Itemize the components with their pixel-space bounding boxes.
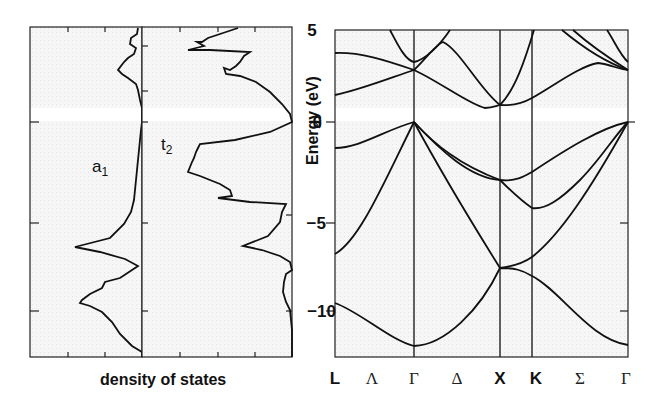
kpoint-K: K	[530, 369, 543, 388]
kpoint-Lambda: Λ	[366, 369, 379, 388]
figure: a1 t2 density of states	[0, 0, 657, 410]
kpoint-Sigma: Σ	[575, 369, 585, 388]
ytick-minus10: −10	[307, 302, 336, 321]
kpoint-L: L	[330, 369, 340, 388]
kpoint-Gamma-end: Γ	[621, 369, 631, 388]
band-structure-panel	[326, 30, 635, 357]
dos-t2-panel	[142, 27, 292, 357]
ytick-minus5: −5	[307, 214, 326, 233]
ytick-5: 5	[307, 21, 316, 40]
energy-ylabel: Energy (eV)	[304, 76, 321, 165]
kpoint-X: X	[494, 369, 506, 388]
kpoint-Delta: Δ	[452, 369, 463, 388]
dos-xlabel: density of states	[100, 371, 226, 388]
kpoint-labels: L Λ Γ Δ X K Σ Γ	[330, 369, 631, 388]
dos-a1-panel	[30, 27, 142, 357]
kpoint-Gamma: Γ	[409, 369, 419, 388]
